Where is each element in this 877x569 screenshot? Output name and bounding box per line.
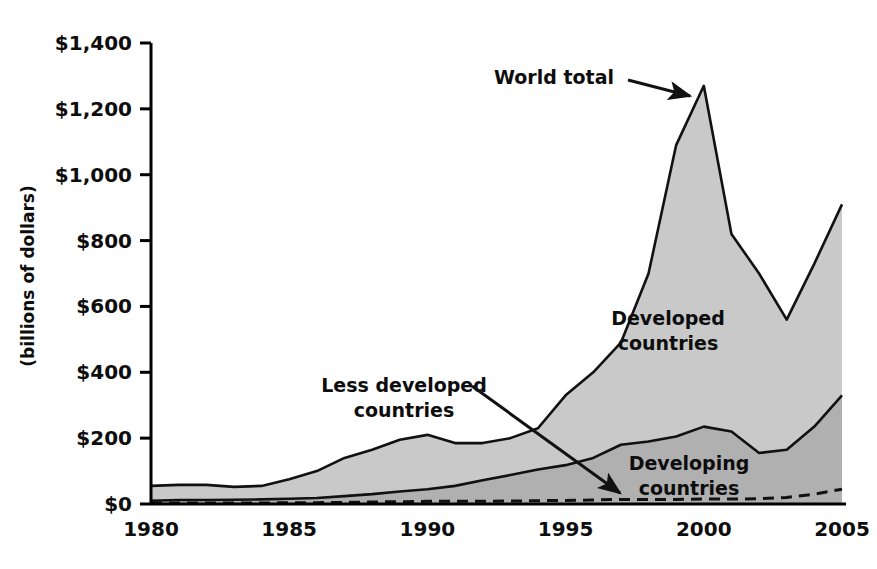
x-axis-tick-label: 1995: [538, 517, 594, 541]
y-axis-tick-label: $1,400: [55, 31, 132, 55]
y-axis-tick-label: $1,200: [55, 97, 132, 121]
y-axis-tick-label: $1,000: [55, 163, 132, 187]
y-axis-tick-label: $400: [76, 360, 132, 384]
x-axis-tick-label: 2000: [676, 517, 732, 541]
y-axis-tick-label: $600: [76, 294, 132, 318]
x-axis-tick-label: 2005: [814, 517, 870, 541]
annotation-label: World total: [494, 66, 614, 88]
y-axis-tick-label: $0: [104, 492, 132, 516]
chart-canvas: $0$200$400$600$800$1,000$1,200$1,400 198…: [0, 0, 877, 569]
y-axis-tick-label: $800: [76, 229, 132, 253]
x-axis-tick-label: 1980: [123, 517, 179, 541]
x-axis-tick-label: 1985: [261, 517, 317, 541]
y-axis-title: (billions of dollars): [18, 185, 38, 366]
y-axis-tick-label: $200: [76, 426, 132, 450]
chart-figure: $0$200$400$600$800$1,000$1,200$1,400 198…: [0, 0, 877, 569]
x-axis-tick-label: 1990: [400, 517, 456, 541]
